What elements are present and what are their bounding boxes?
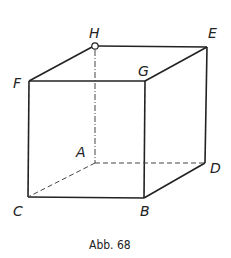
edge-BD — [144, 163, 205, 198]
edge-AC — [28, 163, 95, 197]
label-E: E — [208, 25, 217, 41]
edge-GE — [145, 47, 207, 81]
hidden-edges — [28, 50, 205, 197]
edge-FC — [28, 81, 29, 197]
edge-CB — [28, 197, 144, 198]
label-G: G — [138, 63, 149, 79]
label-C: C — [13, 203, 23, 219]
cube-diagram: H E F G A D C B Abb. 68 — [0, 0, 231, 258]
vertex-H-marker — [92, 43, 98, 49]
label-H: H — [89, 25, 100, 41]
label-D: D — [210, 160, 221, 176]
label-B: B — [140, 203, 150, 219]
label-F: F — [13, 75, 22, 91]
label-A: A — [75, 144, 86, 160]
edge-DE — [205, 47, 207, 163]
visible-edges — [28, 46, 207, 198]
edge-EH — [98, 46, 207, 47]
edge-BG — [144, 81, 145, 198]
figure-caption: Abb. 68 — [89, 238, 131, 252]
edge-HF — [29, 47, 92, 81]
